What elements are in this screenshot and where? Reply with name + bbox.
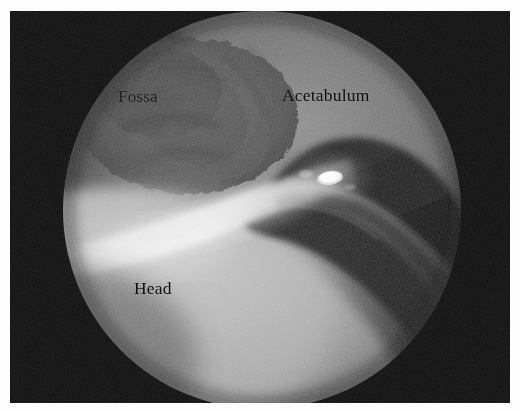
background-grain <box>10 11 510 403</box>
photograph-plate: Fossa Acetabulum Head <box>10 11 510 403</box>
endoscopic-image <box>10 11 510 403</box>
arthroscopy-figure: Fossa Acetabulum Head <box>0 0 519 411</box>
